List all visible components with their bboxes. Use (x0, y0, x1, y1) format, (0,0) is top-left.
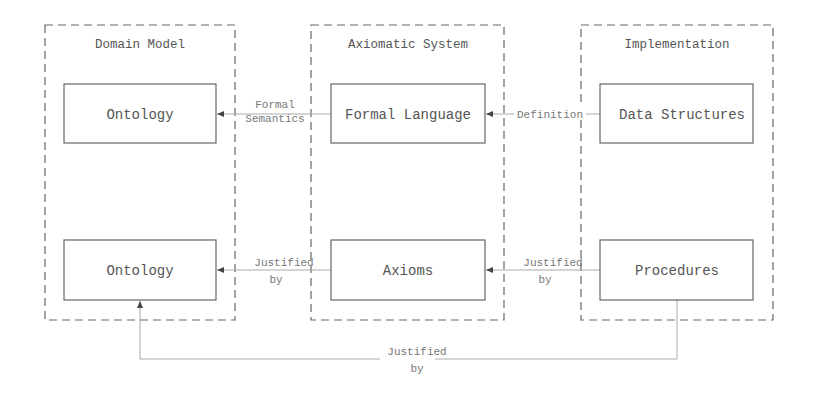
edge-label-formal-semantics-line2: Semantics (245, 113, 304, 125)
edge-label-definition: Definition (514, 107, 586, 121)
node-data-structures-label: Data Structures (619, 107, 745, 123)
edge-label-justified-axioms-line1: Justified (254, 257, 313, 269)
edge-label-justified-axioms-line2: by (269, 274, 283, 286)
edge-label-justified-bottom-line2: by (410, 363, 424, 375)
node-procedures[interactable]: Procedures (600, 240, 753, 300)
edge-label-justified-procedures-line1: Justified (523, 257, 582, 269)
edge-label-formal-semantics-line1: Formal (255, 99, 295, 111)
container-title-domain-model: Domain Model (95, 38, 185, 52)
node-ontology-top[interactable]: Ontology (64, 84, 216, 143)
diagram-canvas: Domain Model Axiomatic System Implementa… (0, 0, 814, 400)
edge-label-justified-bottom-line1: Justified (387, 346, 446, 358)
edge-label-formal-semantics: Formal Semantics (245, 99, 304, 125)
edge-label-justified-procedures: Justified by (523, 257, 582, 286)
node-data-structures[interactable]: Data Structures (600, 84, 753, 143)
edge-label-justified-bottom: Justified by (380, 346, 447, 375)
node-axioms-label: Axioms (383, 263, 433, 279)
edge-label-definition-line1: Definition (517, 109, 583, 121)
node-ontology-bottom-label: Ontology (106, 263, 173, 279)
node-procedures-label: Procedures (635, 263, 719, 279)
node-formal-language-label: Formal Language (345, 107, 471, 123)
node-formal-language[interactable]: Formal Language (331, 84, 485, 143)
node-axioms[interactable]: Axioms (331, 240, 485, 300)
node-ontology-bottom[interactable]: Ontology (64, 240, 216, 300)
edge-label-justified-axioms: Justified by (254, 257, 313, 286)
edge-label-justified-procedures-line2: by (538, 274, 552, 286)
container-title-axiomatic-system: Axiomatic System (348, 38, 468, 52)
container-title-implementation: Implementation (624, 38, 729, 52)
node-ontology-top-label: Ontology (106, 107, 173, 123)
